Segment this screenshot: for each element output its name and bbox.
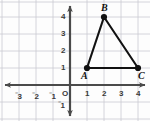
coordinate-plane-figure: ⁻3 ⁻2 ⁻1 O 1 2 3 4 4 3 2 1 ⁻1 A B C [0, 0, 150, 121]
x-tick-2: 2 [102, 90, 106, 98]
point-label-b: B [101, 3, 108, 13]
y-tick-2: 2 [61, 47, 65, 55]
point-b [101, 14, 107, 20]
x-tick-origin: O [62, 90, 68, 98]
y-tick-neg1: ⁻1 [58, 99, 65, 110]
x-tick-neg3: ⁻3 [15, 90, 22, 101]
y-tick-1: 1 [61, 64, 65, 72]
graph-canvas [0, 0, 150, 121]
x-tick-neg1: ⁻1 [49, 90, 56, 101]
x-tick-1: 1 [85, 90, 89, 98]
x-tick-3: 3 [119, 90, 123, 98]
y-tick-3: 3 [61, 30, 65, 38]
x-tick-neg2: ⁻2 [32, 90, 39, 101]
point-label-a: A [81, 71, 88, 81]
grid-lines [0, 0, 150, 121]
triangle-edges [87, 17, 138, 68]
vertex-points [84, 14, 141, 71]
point-label-c: C [138, 71, 145, 81]
edge-a-b [87, 17, 104, 68]
y-tick-4: 4 [61, 13, 65, 21]
x-tick-4: 4 [136, 90, 140, 98]
axes [5, 6, 145, 116]
